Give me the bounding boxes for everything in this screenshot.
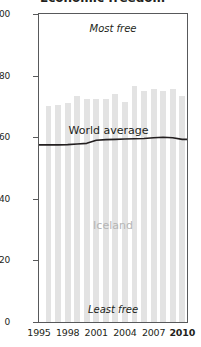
y-axis-tick-label: 20 — [0, 255, 10, 265]
x-axis-tick-label: 1998 — [56, 327, 79, 338]
x-axis-tick-label: 2001 — [85, 327, 108, 338]
annotation-least-free: Least free — [88, 304, 138, 315]
economic-freedom-chart: Economic freedom 020406080100 Most free … — [0, 0, 201, 347]
annotation-most-free: Most free — [90, 23, 137, 34]
x-axis-tick-label: 1995 — [27, 327, 50, 338]
annotation-iceland: Iceland — [93, 219, 133, 232]
y-axis-tick-label: 100 — [0, 9, 10, 19]
x-axis-tick-label: 2007 — [142, 327, 165, 338]
y-axis-tick-label: 60 — [0, 132, 10, 142]
plot-inner: Most free Iceland World average Least fr… — [39, 14, 187, 322]
annotation-world-average: World average — [69, 124, 149, 137]
y-axis-tick-label: 80 — [0, 71, 10, 81]
world-average-line — [39, 14, 187, 322]
y-axis-tick-label: 40 — [0, 194, 10, 204]
chart-title: Economic freedom — [40, 0, 200, 5]
x-axis-tick-label: 2004 — [113, 327, 136, 338]
x-axis-tick-label: 2010 — [169, 327, 195, 338]
y-axis-tick-label: 0 — [0, 317, 10, 327]
plot-area: Most free Iceland World average Least fr… — [38, 13, 188, 323]
